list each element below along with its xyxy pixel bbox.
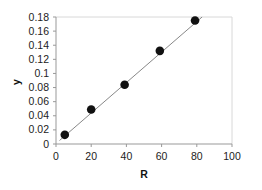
x-tick-label: 20 [85, 150, 97, 162]
x-tick-label: 100 [223, 150, 241, 162]
y-tick-label: 0.16 [29, 25, 50, 37]
plot-area [56, 17, 232, 144]
y-tick-label: 0.12 [29, 53, 50, 65]
x-tick-label: 40 [121, 150, 133, 162]
trend-line [60, 17, 203, 140]
scatter-chart: 00.020.040.060.080.10.120.140.160.18 020… [0, 0, 262, 190]
y-axis-title: y [10, 79, 22, 85]
x-tick-label: 80 [191, 150, 203, 162]
x-tick-label: 60 [156, 150, 168, 162]
y-tick-label: 0.08 [29, 81, 50, 93]
data-point [120, 80, 129, 89]
x-axis-title: R [140, 168, 148, 180]
y-tick-label: 0.04 [29, 109, 50, 121]
y-tick-label: 0.06 [29, 95, 50, 107]
y-tick-label: 0.1 [34, 67, 49, 79]
data-point [61, 131, 70, 140]
y-axis: 00.020.040.060.080.10.120.140.160.18 [29, 11, 56, 150]
y-tick-label: 0.02 [29, 123, 50, 135]
x-tick-label: 0 [53, 150, 59, 162]
y-tick-label: 0.18 [29, 11, 50, 23]
y-tick-label: 0.14 [29, 39, 50, 51]
data-point [191, 16, 200, 25]
data-point [87, 105, 96, 114]
y-tick-label: 0 [43, 138, 49, 150]
x-axis: 020406080100 [53, 144, 241, 162]
data-points [61, 16, 200, 139]
data-point [156, 47, 165, 56]
